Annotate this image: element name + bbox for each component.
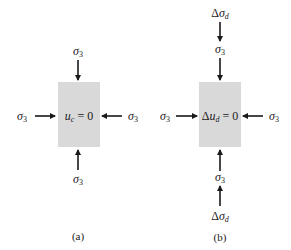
caption-b: (b) xyxy=(214,232,227,243)
caption-a: (a) xyxy=(72,231,84,242)
label-b-top-delta-sigma-d: Δσd xyxy=(211,7,229,21)
label-b-left-sigma3: σ3 xyxy=(160,110,170,124)
stress-arrows xyxy=(0,0,291,250)
specimen-b-pore-pressure: Δud = 0 xyxy=(202,110,239,124)
label-a-left-sigma3: σ3 xyxy=(17,110,27,124)
label-b-bottom-delta-sigma-d: Δσd xyxy=(211,210,229,224)
label-a-bottom-sigma3: σ3 xyxy=(73,173,83,187)
specimen-a-pore-pressure: uc = 0 xyxy=(65,110,93,124)
label-a-top-sigma3: σ3 xyxy=(73,45,83,59)
label-a-right-sigma3: σ3 xyxy=(128,110,138,124)
label-b-top-sigma3: σ3 xyxy=(215,43,225,57)
label-b-right-sigma3: σ3 xyxy=(269,110,279,124)
label-b-bottom-sigma3: σ3 xyxy=(215,171,225,185)
